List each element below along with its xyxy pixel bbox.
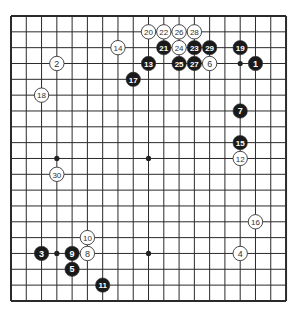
stone-white-22: 22 <box>157 25 171 39</box>
stone-white-8: 8 <box>80 246 94 260</box>
stone-black-15: 15 <box>233 135 247 149</box>
stone-black-23: 23 <box>187 40 201 54</box>
stone-white-14: 14 <box>111 40 125 54</box>
stone-black-25: 25 <box>172 56 186 70</box>
move-number: 18 <box>37 91 46 100</box>
move-number: 23 <box>190 44 199 53</box>
stone-white-30: 30 <box>50 167 64 181</box>
stone-white-12: 12 <box>233 151 247 165</box>
star-point <box>54 251 59 256</box>
move-number: 13 <box>144 60 153 69</box>
move-number: 19 <box>236 44 245 53</box>
move-number: 26 <box>175 28 184 37</box>
move-number: 6 <box>207 59 212 69</box>
move-number: 22 <box>159 28 168 37</box>
move-number: 12 <box>236 155 245 164</box>
stone-black-17: 17 <box>126 72 140 86</box>
stone-black-1: 1 <box>248 56 262 70</box>
stone-black-13: 13 <box>141 56 155 70</box>
move-number: 11 <box>98 281 107 290</box>
move-number: 24 <box>175 44 184 53</box>
move-number: 28 <box>190 28 199 37</box>
stone-black-19: 19 <box>233 40 247 54</box>
star-point <box>54 156 59 161</box>
move-number: 2 <box>54 59 59 69</box>
stone-white-6: 6 <box>202 56 216 70</box>
stone-black-11: 11 <box>95 278 109 292</box>
stone-white-28: 28 <box>187 25 201 39</box>
stone-black-3: 3 <box>34 246 48 260</box>
move-number: 14 <box>114 44 123 53</box>
stone-white-24: 24 <box>172 40 186 54</box>
stone-black-7: 7 <box>233 104 247 118</box>
move-number: 17 <box>129 76 138 85</box>
move-number: 16 <box>251 218 260 227</box>
star-point <box>146 156 151 161</box>
stone-black-21: 21 <box>157 40 171 54</box>
move-number: 10 <box>83 234 92 243</box>
move-number: 29 <box>205 44 214 53</box>
move-number: 21 <box>159 44 168 53</box>
move-number: 1 <box>253 59 258 69</box>
move-number: 8 <box>85 249 90 259</box>
stone-white-18: 18 <box>34 88 48 102</box>
stone-black-9: 9 <box>65 246 79 260</box>
stone-white-16: 16 <box>248 215 262 229</box>
stone-white-20: 20 <box>141 25 155 39</box>
move-number: 30 <box>52 171 61 180</box>
star-point <box>146 251 151 256</box>
move-number: 27 <box>190 60 199 69</box>
move-number: 20 <box>144 28 153 37</box>
move-number: 3 <box>39 249 44 259</box>
move-number: 4 <box>238 249 243 259</box>
stone-black-27: 27 <box>187 56 201 70</box>
stone-white-2: 2 <box>50 56 64 70</box>
stone-white-26: 26 <box>172 25 186 39</box>
go-board: 1234567891011121314151617181920212223242… <box>0 0 295 311</box>
stone-white-10: 10 <box>80 230 94 244</box>
move-number: 9 <box>70 249 75 259</box>
stone-white-4: 4 <box>233 246 247 260</box>
stone-black-29: 29 <box>202 40 216 54</box>
move-number: 15 <box>236 139 245 148</box>
stone-black-5: 5 <box>65 262 79 276</box>
star-point <box>238 61 243 66</box>
move-number: 25 <box>175 60 184 69</box>
move-number: 7 <box>238 106 243 116</box>
move-number: 5 <box>70 264 75 274</box>
